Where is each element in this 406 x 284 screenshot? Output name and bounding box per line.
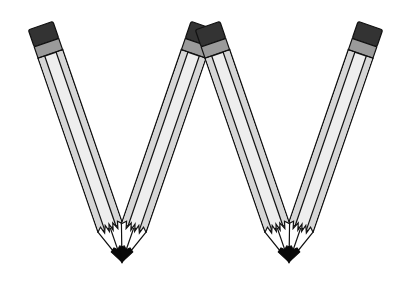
pencil-3 (195, 21, 301, 266)
pencil-1 (28, 21, 134, 266)
pencil-4 (277, 21, 383, 266)
pencil-letter-w (0, 0, 406, 284)
pencil-2 (110, 21, 216, 266)
